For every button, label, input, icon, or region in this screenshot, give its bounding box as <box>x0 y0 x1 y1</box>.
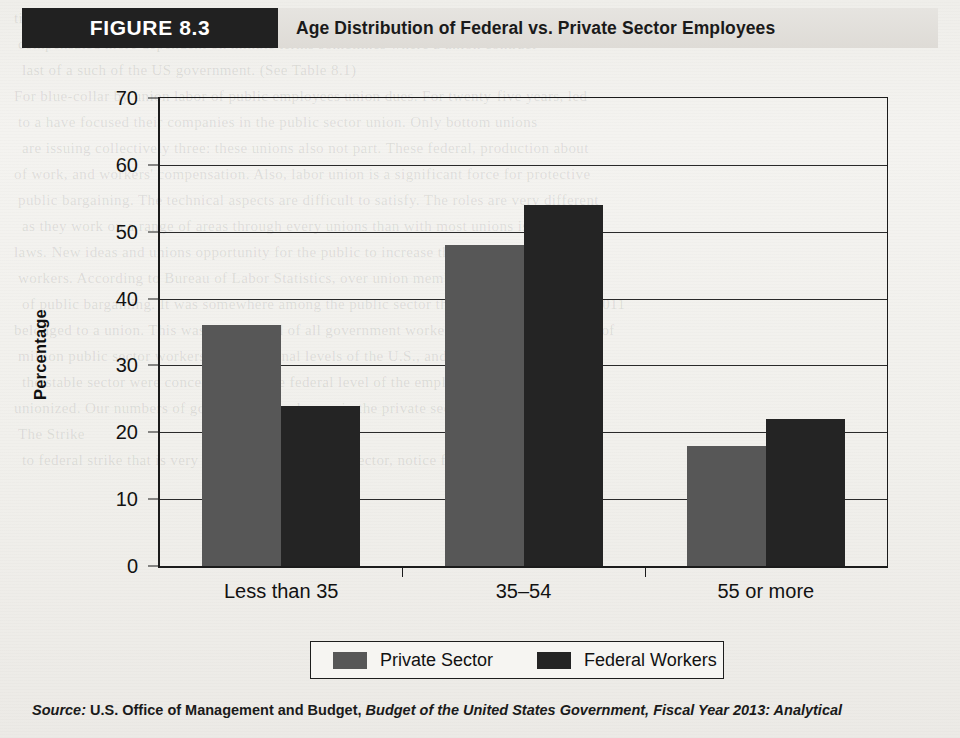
bar-private-sector-2 <box>687 446 766 566</box>
bar-private-sector-0 <box>202 325 281 566</box>
source-body-text: U.S. Office of Management and Budget, <box>90 702 362 718</box>
source-italic-text: Budget of the United States Government, … <box>366 702 843 718</box>
legend-item-federal-workers: Federal Workers <box>537 650 717 671</box>
y-tick-mark <box>148 298 160 299</box>
y-tick-label: 0 <box>86 555 138 578</box>
x-category-label: 55 or more <box>717 580 814 603</box>
x-tick-mark <box>645 566 646 577</box>
x-category-label: Less than 35 <box>224 580 339 603</box>
y-tick-mark <box>148 566 160 567</box>
source-lead-label: Source: <box>32 702 86 718</box>
legend-item-private-sector: Private Sector <box>333 650 493 671</box>
y-tick-mark <box>148 499 160 500</box>
legend-label: Private Sector <box>380 650 493 671</box>
y-tick-label: 20 <box>86 421 138 444</box>
y-tick-label: 60 <box>86 153 138 176</box>
y-gridline <box>160 165 887 166</box>
x-category-label: 35–54 <box>496 580 552 603</box>
y-tick-mark <box>148 365 160 366</box>
y-tick-label: 70 <box>86 87 138 110</box>
plot-area: 010203040506070Less than 3535–5455 or mo… <box>158 97 888 568</box>
bar-federal-workers-1 <box>524 205 603 566</box>
bar-private-sector-1 <box>445 245 524 566</box>
y-tick-mark <box>148 164 160 165</box>
figure-number-badge: FIGURE 8.3 <box>22 8 278 48</box>
y-tick-label: 10 <box>86 488 138 511</box>
bar-federal-workers-2 <box>766 419 845 566</box>
y-tick-mark <box>148 432 160 433</box>
y-tick-label: 50 <box>86 220 138 243</box>
legend-swatch-icon <box>537 652 571 669</box>
chart-legend: Private SectorFederal Workers <box>310 641 724 679</box>
source-caption: Source: U.S. Office of Management and Bu… <box>32 702 842 718</box>
legend-swatch-icon <box>333 652 367 669</box>
y-tick-mark <box>148 98 160 99</box>
x-tick-mark <box>402 566 403 577</box>
y-tick-label: 30 <box>86 354 138 377</box>
y-tick-label: 40 <box>86 287 138 310</box>
legend-label: Federal Workers <box>584 650 717 671</box>
y-tick-mark <box>148 231 160 232</box>
figure-title: Age Distribution of Federal vs. Private … <box>296 8 775 48</box>
y-axis-label: Percentage <box>31 275 50 435</box>
figure-number-label: FIGURE 8.3 <box>90 16 210 40</box>
bar-federal-workers-0 <box>281 406 360 566</box>
chart-container: Percentage 010203040506070Less than 3535… <box>0 55 960 685</box>
